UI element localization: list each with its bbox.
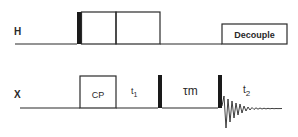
channel-h: H Decouple [14,12,287,44]
h-90-pulse [77,12,82,44]
t2-label: t2 [243,84,251,98]
x-90-pulse-2 [218,75,222,108]
pulse-sequence-diagram: H Decouple X CP t1 τm t2 [0,0,298,137]
tau-m-label: τm [183,84,198,98]
t1-label: t1 [131,86,138,98]
channel-x: X CP t1 τm t2 [14,75,282,128]
cp-label: CP [92,90,105,100]
h-spinlock-box-1 [82,12,117,44]
decouple-label: Decouple [234,30,275,40]
fid-signal [222,96,282,128]
x-90-pulse-1 [158,75,162,108]
h-spinlock-box-2 [116,12,160,44]
channel-x-label: X [14,89,21,100]
channel-h-label: H [14,26,21,37]
